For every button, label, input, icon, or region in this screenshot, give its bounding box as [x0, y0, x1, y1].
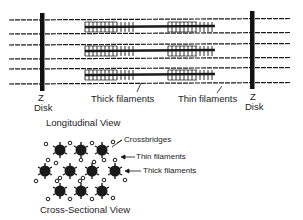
crossbridge-cross [85, 194, 88, 196]
crossbridge-cross [74, 146, 77, 148]
crossbridge-cross [119, 174, 122, 176]
crossbridge-cross [108, 167, 111, 169]
thin-filament [9, 83, 290, 85]
crossbridge-cross [74, 153, 77, 155]
crossbridge-cross [106, 153, 109, 155]
crossbridge-cross [64, 153, 67, 155]
crossbridge-cross [95, 194, 98, 196]
crossbridge-cross [95, 146, 98, 148]
crossbridge-cross [74, 194, 77, 196]
z-disk-left [40, 13, 45, 91]
crossbridge-cross [85, 167, 88, 169]
thick-filament-cross [110, 166, 121, 177]
thin-pointer [217, 86, 222, 93]
crossbridge-cross [64, 194, 67, 196]
crossbridge-cross [85, 174, 88, 176]
thick-filaments-label: Thick filaments [91, 94, 154, 104]
thin-filament-cross [102, 158, 106, 162]
thick-filament-cross [40, 166, 51, 177]
crossbridge-cross [53, 194, 56, 196]
crossbridge-cross [63, 174, 66, 176]
thin-filament-cross [111, 196, 115, 200]
crossbridge-cross [106, 194, 109, 196]
crossbridge-cross [85, 187, 88, 189]
thin-filament-cross [90, 197, 94, 201]
crossbridge-cross [53, 187, 56, 189]
thin-filament-cross [54, 161, 58, 165]
thin-filament-cross [46, 158, 50, 162]
crossbridge-cross [49, 174, 52, 176]
thick-filament [85, 50, 215, 51]
crossbridge-cross [64, 146, 67, 148]
crossbridge-cross [38, 174, 41, 176]
crossbridge-cross [63, 167, 66, 169]
thin-filament-cross [68, 141, 72, 145]
cross-sectional-view-title: Cross-Sectional View [40, 205, 130, 215]
crossbridge-cross [119, 167, 122, 169]
thick-filaments-longitudinal [85, 22, 215, 80]
crossbridge-cross [106, 187, 109, 189]
thick-pointer [137, 83, 141, 92]
thick-filament-cross [76, 145, 87, 156]
crossbridge-cross [95, 187, 98, 189]
thin-filament-cross [102, 178, 106, 182]
thin-filament-cross [111, 140, 115, 144]
thin-filament-cross [92, 160, 96, 164]
cross-thick-label: Thick filaments [143, 167, 196, 175]
crossbridge-cross [53, 146, 56, 148]
z-disk-right [250, 11, 255, 89]
disk-label-left: Disk [34, 103, 52, 113]
thin-filament-cross [79, 158, 83, 162]
thin-filament [9, 68, 290, 70]
thin-filament-cross [113, 158, 117, 162]
thick-filament-cross [55, 186, 66, 197]
thin-filament-cross [68, 197, 72, 201]
cross-section-lattice [34, 140, 127, 201]
thin-filament-cross [55, 179, 59, 183]
crossbridge-cross [96, 167, 99, 169]
cross-thin-label: Thin filaments [136, 153, 186, 161]
crossbridge-cross [74, 187, 77, 189]
thin-filament-cross [123, 178, 127, 182]
crossbridge-cross [108, 174, 111, 176]
thin-filament [9, 19, 290, 21]
crossbridge-cross [74, 167, 77, 169]
thin-filament-cross [81, 176, 85, 180]
thin-filament-cross [46, 197, 50, 201]
crossbridge-cross [95, 153, 98, 155]
thin-filament-cross [34, 179, 38, 183]
thick-filament-cross [65, 166, 76, 177]
crossbridge-cross [49, 167, 52, 169]
thin-filament [9, 33, 290, 35]
thick-filament-cross [76, 186, 87, 197]
crossbridge-cross [53, 153, 56, 155]
thin-filament-cross [44, 142, 48, 146]
crossbridge-cross [85, 153, 88, 155]
crossbridges-label: Crossbridges [124, 136, 171, 144]
longitudinal-view-title: Longitudinal View [46, 118, 120, 128]
thin-filament-cross [58, 176, 62, 180]
crossbridge-cross [106, 146, 109, 148]
thin-filament [9, 44, 290, 46]
thick-filament [85, 26, 215, 27]
thin-filament [9, 58, 290, 60]
thick-filament [85, 74, 215, 75]
crossbridge-cross [85, 146, 88, 148]
disk-label-right: Disk [245, 102, 263, 112]
thick-filament-cross [87, 166, 98, 177]
crossbridge-cross [64, 187, 67, 189]
thin-filaments-label: Thin filaments [178, 94, 237, 104]
thick-filament-cross [97, 145, 108, 156]
thick-filament-cross [55, 145, 66, 156]
thick-filament-cross [97, 186, 108, 197]
thin-filament-cross [90, 141, 94, 145]
crossbridge-cross [38, 167, 41, 169]
crossbridge-cross [74, 174, 77, 176]
crossbridge-cross [96, 174, 99, 176]
thin-filament-cross [78, 179, 82, 183]
